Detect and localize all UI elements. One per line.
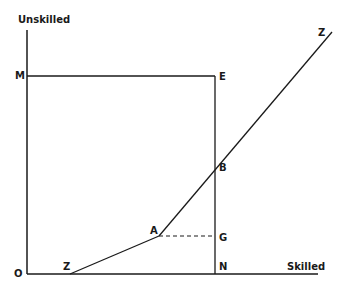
line-z-a (70, 236, 159, 274)
diagram-canvas (0, 0, 344, 292)
point-label-g: G (219, 233, 227, 243)
point-label-a: A (150, 226, 158, 236)
y-axis-label: Unskilled (18, 15, 70, 25)
origin-label: O (14, 269, 23, 279)
point-label-b: B (219, 163, 227, 173)
point-label-n: N (219, 262, 227, 272)
point-label-z-top: Z (318, 28, 325, 38)
point-label-m: M (15, 71, 25, 81)
line-a-z (159, 32, 332, 236)
point-label-e: E (219, 72, 226, 82)
point-label-z-bottom: Z (63, 262, 70, 272)
x-axis-label: Skilled (287, 262, 325, 272)
